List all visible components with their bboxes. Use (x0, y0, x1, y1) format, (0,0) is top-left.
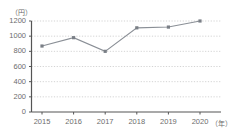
x-tick-label: 2016 (65, 117, 82, 126)
y-tick-label: 800 (0, 46, 26, 55)
data-point-marker (72, 36, 75, 39)
y-tick-label: 0 (0, 107, 26, 116)
x-tick-label: 2015 (34, 117, 51, 126)
x-axis-unit-label: （年） (211, 118, 230, 128)
y-tick-label: 200 (0, 92, 26, 101)
y-tick-label: 400 (0, 77, 26, 86)
data-point-marker (40, 44, 43, 47)
x-tick-label: 2018 (128, 117, 145, 126)
y-tick-label: 1200 (0, 16, 26, 25)
chart-plot-area (0, 0, 230, 136)
x-tick-label: 2020 (192, 117, 209, 126)
y-tick-label: 1000 (0, 31, 26, 40)
axis-tickmarks-group (29, 21, 200, 115)
x-tick-label: 2019 (160, 117, 177, 126)
gridlines-group (32, 21, 222, 97)
data-point-marker (135, 26, 138, 29)
line-chart: （円） 020040060080010001200 20152016201720… (0, 0, 230, 136)
data-point-marker (104, 50, 107, 53)
data-point-marker (198, 19, 201, 22)
y-tick-label: 600 (0, 62, 26, 71)
x-tick-label: 2017 (97, 117, 114, 126)
data-point-marker (167, 25, 170, 28)
